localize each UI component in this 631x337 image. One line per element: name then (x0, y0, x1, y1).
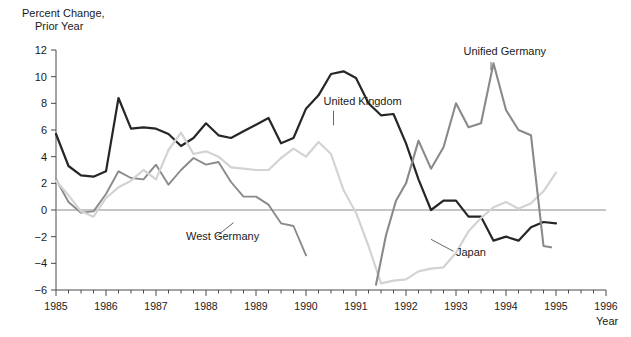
line-chart: Percent Change, Prior Year Year 12108642… (0, 0, 631, 337)
y-tick-label: −4 (34, 257, 47, 269)
x-tick-label: 1995 (544, 300, 568, 312)
x-tick-label: 1993 (444, 300, 468, 312)
x-axis-title: Year (596, 315, 619, 327)
x-tick-label: 1992 (394, 300, 418, 312)
x-tick-label: 1990 (294, 300, 318, 312)
y-tick-label: −6 (34, 284, 47, 296)
series-label-west-germany: West Germany (186, 230, 260, 242)
y-tick-label: 12 (35, 44, 47, 56)
x-tick-label: 1986 (94, 300, 118, 312)
x-tick-label: 1996 (594, 300, 618, 312)
y-tick-label: 0 (41, 204, 47, 216)
series-label-united-kingdom: United Kingdom (324, 95, 402, 107)
y-tick-label: 2 (41, 177, 47, 189)
y-tick-label: 4 (41, 151, 47, 163)
y-axis-title-line2: Prior Year (35, 20, 84, 32)
y-tick-label: 10 (35, 71, 47, 83)
y-tick-label: 8 (41, 97, 47, 109)
y-axis: 121086420−2−4−6 (34, 44, 56, 296)
x-tick-label: 1989 (244, 300, 268, 312)
leader-line-japan (431, 239, 454, 251)
y-tick-label: 6 (41, 124, 47, 136)
chart-container: Percent Change, Prior Year Year 12108642… (0, 0, 631, 337)
series-line-west-germany (56, 158, 306, 255)
series-line-japan (56, 133, 556, 284)
series-annotations: United KingdomWest GermanyJapanUnified G… (186, 45, 547, 258)
x-tick-label: 1985 (44, 300, 68, 312)
y-axis-title-line1: Percent Change, (22, 7, 105, 19)
y-tick-label: −2 (34, 231, 47, 243)
x-tick-label: 1987 (144, 300, 168, 312)
x-tick-label: 1994 (494, 300, 518, 312)
x-tick-label: 1988 (194, 300, 218, 312)
series-label-unified-germany: Unified Germany (464, 45, 547, 57)
x-tick-label: 1991 (344, 300, 368, 312)
x-axis: 1985198619871988198919901991199219931994… (44, 290, 618, 312)
series-label-japan: Japan (456, 246, 486, 258)
